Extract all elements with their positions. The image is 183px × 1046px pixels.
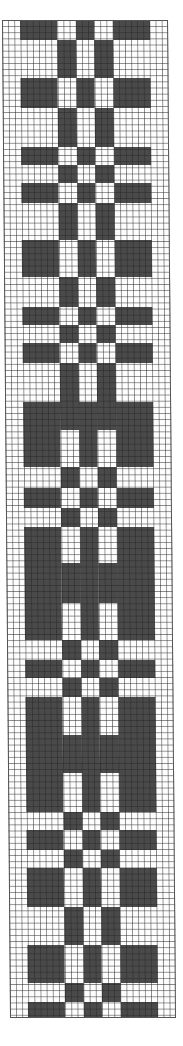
dark-block <box>94 40 113 78</box>
dark-block <box>76 20 95 40</box>
dark-block <box>101 812 120 830</box>
dark-block <box>23 343 60 363</box>
dark-block <box>101 850 120 868</box>
dark-block <box>28 945 65 983</box>
pattern-band-x <box>6 527 172 563</box>
dark-block <box>77 147 96 165</box>
dark-block <box>114 147 151 165</box>
dark-block <box>113 20 150 40</box>
dark-block <box>80 527 99 563</box>
pattern-band-o <box>9 907 175 945</box>
dark-block <box>24 488 61 508</box>
dark-block <box>101 907 120 945</box>
pattern-band-x <box>5 430 171 467</box>
dark-block <box>26 735 63 773</box>
dark-block <box>115 307 152 325</box>
dark-block <box>102 983 121 1002</box>
pattern-band-x <box>7 603 173 640</box>
dark-block <box>25 603 62 640</box>
dark-block <box>61 467 80 488</box>
dark-block <box>58 165 77 183</box>
dark-block <box>79 430 98 467</box>
dark-block <box>25 527 62 563</box>
dark-block <box>26 773 63 812</box>
pattern-band-x <box>4 307 170 325</box>
dark-block <box>23 307 60 325</box>
dark-block <box>118 697 155 735</box>
pattern-band-f <box>8 735 174 773</box>
dark-block <box>22 240 59 277</box>
dark-block <box>82 773 101 812</box>
dark-block <box>100 735 119 773</box>
pattern-band-x <box>4 240 170 277</box>
dark-block <box>83 945 102 983</box>
pattern-band-x <box>3 183 169 203</box>
pattern-band-f <box>5 402 171 430</box>
dark-block <box>119 773 156 812</box>
dark-block <box>81 697 100 735</box>
pattern-band-o <box>7 640 173 660</box>
dark-block <box>98 508 117 527</box>
dark-block <box>24 430 61 467</box>
dark-block <box>64 812 83 830</box>
pattern-band-x <box>10 1002 176 1018</box>
dark-block <box>116 430 153 467</box>
pattern-band-o <box>2 40 168 78</box>
pattern-band-x <box>9 868 175 907</box>
dark-block <box>117 527 154 563</box>
dark-block <box>119 830 156 850</box>
dark-block <box>76 78 95 108</box>
dark-block <box>84 1002 103 1018</box>
dark-block <box>99 640 118 660</box>
pattern-band-o <box>7 678 173 697</box>
dark-block <box>113 78 150 108</box>
pattern-band-o <box>6 467 172 488</box>
dark-block <box>120 945 157 983</box>
dark-block <box>97 363 116 402</box>
pattern-band-x <box>7 697 173 735</box>
pattern-band-x <box>3 147 169 165</box>
dark-block <box>121 1002 158 1018</box>
dark-block <box>60 363 79 402</box>
pattern-band-o <box>3 203 169 240</box>
dark-block <box>21 147 58 165</box>
dark-block <box>79 402 98 430</box>
dark-block <box>63 735 82 773</box>
dark-block <box>60 325 79 343</box>
dark-block <box>114 240 151 277</box>
dark-block <box>58 108 77 147</box>
pattern-band-x <box>9 945 175 983</box>
dark-block <box>21 78 58 108</box>
dark-block <box>78 307 97 325</box>
pattern-band-o <box>3 108 169 147</box>
dark-block <box>96 277 115 307</box>
dark-block <box>25 563 62 603</box>
dark-block <box>78 240 97 277</box>
dark-block <box>59 277 78 307</box>
dark-block <box>65 983 84 1002</box>
dark-block <box>118 735 155 773</box>
pattern-chart <box>2 20 176 1018</box>
dark-block <box>82 735 101 773</box>
dark-block <box>80 603 99 640</box>
dark-block <box>116 402 153 430</box>
dark-block <box>62 640 81 660</box>
dark-block <box>82 830 101 850</box>
pattern-band-x <box>6 488 172 508</box>
dark-block <box>83 868 102 907</box>
pattern-band-o <box>6 508 172 527</box>
pattern-band-x <box>9 830 175 850</box>
pattern-band-x <box>8 773 174 812</box>
dark-block <box>26 660 63 678</box>
dark-block <box>20 20 57 40</box>
pattern-band-x <box>2 20 168 40</box>
pattern-band-o <box>8 812 174 830</box>
dark-block <box>118 660 155 678</box>
dark-block <box>96 203 115 240</box>
pattern-band-x <box>5 343 171 363</box>
pattern-band-x <box>2 78 168 108</box>
dark-block <box>57 40 76 78</box>
dark-block <box>22 183 59 203</box>
dark-block <box>97 402 116 430</box>
pattern-band-o <box>4 325 170 343</box>
